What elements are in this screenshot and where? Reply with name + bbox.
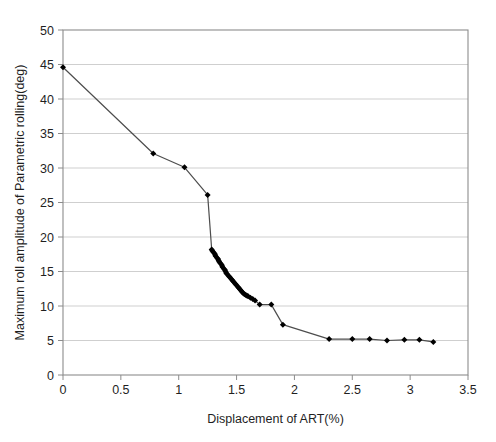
grid-lines (63, 65, 468, 341)
y-tick-label: 20 (40, 231, 54, 245)
y-tick-label: 30 (40, 162, 54, 176)
chart-container: 05101520253035404550 00.511.522.533.5 Di… (0, 0, 496, 442)
y-tick-label: 0 (47, 369, 54, 383)
data-point-marker (430, 339, 436, 345)
y-tick-label: 25 (40, 196, 54, 210)
x-tick-label: 0 (60, 383, 67, 397)
data-point-marker (384, 338, 390, 344)
y-tick-label: 45 (40, 58, 54, 72)
data-point-marker (268, 302, 274, 308)
y-tick-label: 10 (40, 300, 54, 314)
y-tick-label: 35 (40, 127, 54, 141)
data-point-marker (401, 337, 407, 343)
x-tick-label: 1 (175, 383, 182, 397)
x-axis-ticks: 00.511.522.533.5 (60, 375, 477, 397)
x-axis-title: Displacement of ART(%) (207, 412, 344, 426)
x-tick-label: 2 (291, 383, 298, 397)
y-tick-label: 5 (47, 334, 54, 348)
x-tick-label: 2.5 (344, 383, 361, 397)
y-axis-title: Maximum roll amplitude of Parametric rol… (13, 65, 27, 341)
x-tick-label: 3.5 (459, 383, 476, 397)
parametric-rolling-line-chart: 05101520253035404550 00.511.522.533.5 Di… (0, 0, 496, 442)
data-point-marker (367, 336, 373, 342)
y-tick-label: 50 (40, 24, 54, 38)
data-point-marker (349, 336, 355, 342)
x-tick-label: 0.5 (112, 383, 129, 397)
data-series-line (63, 67, 433, 342)
data-point-marker (280, 322, 286, 328)
y-tick-label: 15 (40, 265, 54, 279)
x-tick-label: 3 (407, 383, 414, 397)
data-point-markers (60, 64, 436, 345)
y-tick-label: 40 (40, 93, 54, 107)
y-axis-ticks: 05101520253035404550 (40, 24, 63, 383)
x-tick-label: 1.5 (228, 383, 245, 397)
data-point-marker (326, 336, 332, 342)
data-point-marker (416, 337, 422, 343)
series-line (63, 67, 433, 342)
